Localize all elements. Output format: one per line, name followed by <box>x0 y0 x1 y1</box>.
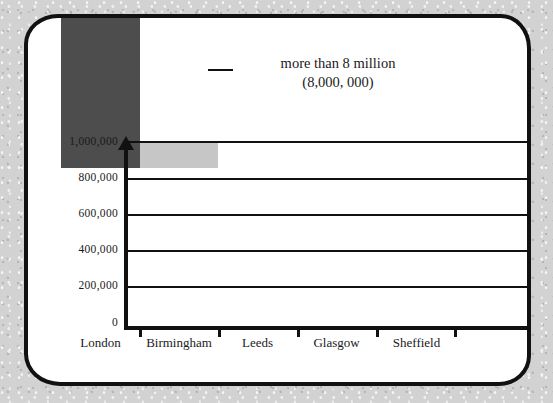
x-category-label-birmingham: Birmingham <box>135 335 223 351</box>
annotation-line-1: more than 8 million <box>233 54 443 73</box>
x-axis-line <box>124 326 527 330</box>
y-tick-label-600000: 600,000 <box>42 207 118 219</box>
x-category-label-leeds: Leeds <box>218 335 297 351</box>
y-tick-label-200000: 200,000 <box>42 279 118 291</box>
gridline-400000 <box>127 250 527 252</box>
y-tick-label-800000: 800,000 <box>42 171 118 183</box>
x-category-label-london: London <box>61 335 140 351</box>
gridline-600000 <box>127 214 527 216</box>
x-category-label-glasgow: Glasgow <box>297 335 376 351</box>
x-category-label-sheffield: Sheffield <box>375 335 458 351</box>
chart-plot-area: 1,000,000 800,000 600,000 400,000 200,00… <box>28 18 527 382</box>
annotation-line-2: (8,000, 000) <box>233 73 443 92</box>
y-tick-label-0: 0 <box>42 316 118 328</box>
gridline-800000 <box>127 178 527 180</box>
y-axis-line <box>124 146 128 330</box>
annotation-more-than-8-million: more than 8 million (8,000, 000) <box>233 54 443 92</box>
gridline-1000000 <box>127 141 527 143</box>
y-tick-label-wrap-4: 200,000 <box>34 279 118 293</box>
chart-panel: 1,000,000 800,000 600,000 400,000 200,00… <box>24 14 531 386</box>
y-tick-label-wrap-5: 0 <box>34 316 118 330</box>
annotation-leader-line <box>208 69 233 71</box>
y-tick-label-400000: 400,000 <box>42 243 118 255</box>
gridline-200000 <box>127 286 527 288</box>
y-tick-label-1000000: 1,000,000 <box>42 135 118 147</box>
bar-birmingham <box>140 142 218 168</box>
y-tick-label-wrap-2: 600,000 <box>34 207 118 221</box>
y-tick-label-wrap-0: 1,000,000 <box>34 135 118 149</box>
y-tick-label-wrap-1: 800,000 <box>34 171 118 185</box>
y-tick-label-wrap-3: 400,000 <box>34 243 118 257</box>
